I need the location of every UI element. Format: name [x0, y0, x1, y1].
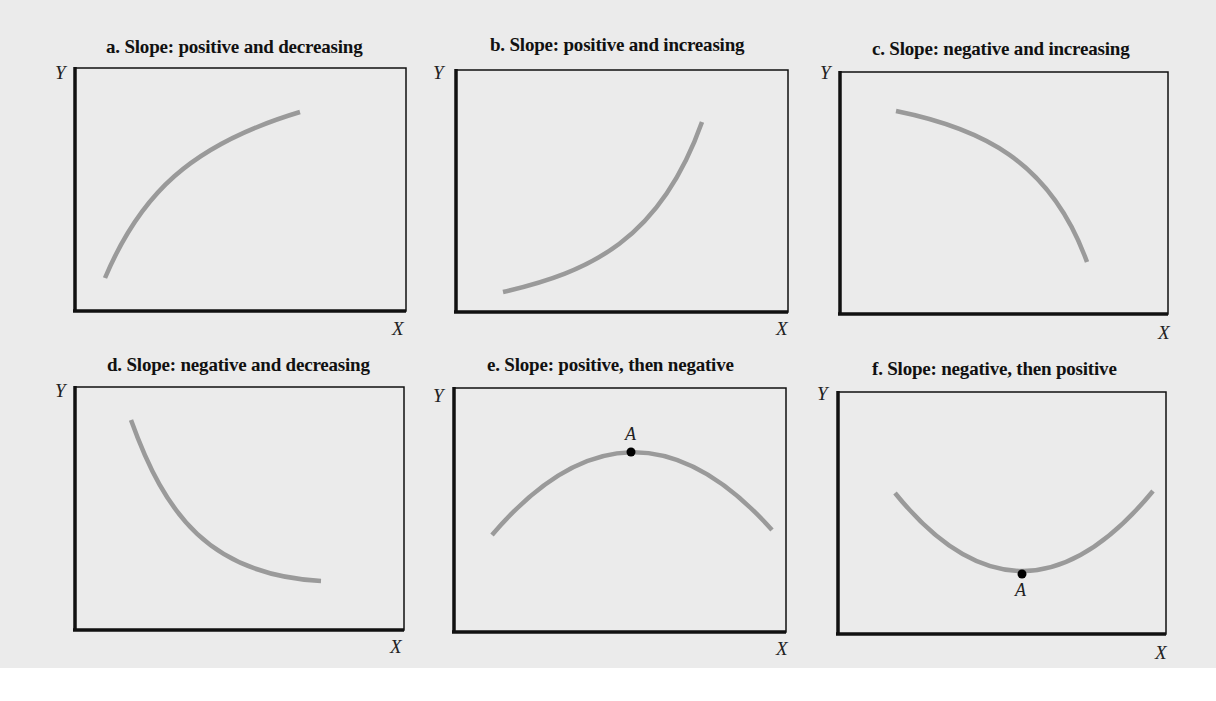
- panel-f-plot: [800, 350, 1216, 700]
- panel-c-plot: [800, 0, 1216, 350]
- point-a-label: A: [625, 424, 636, 445]
- panel-a: a. Slope: positive and decreasing Y X: [0, 0, 410, 340]
- panel-f: f. Slope: negative, then positive Y X A: [800, 350, 1216, 700]
- curve: [503, 122, 702, 292]
- plot-frame: [456, 70, 788, 312]
- plot-frame: [454, 388, 786, 632]
- panel-e-plot: [410, 350, 810, 670]
- panel-b-plot: [410, 0, 810, 340]
- panel-d-plot: [0, 350, 410, 670]
- point-a-label: A: [1015, 580, 1026, 601]
- curve: [105, 112, 300, 278]
- curve: [131, 420, 321, 581]
- panel-c: c. Slope: negative and increasing Y X: [800, 0, 1216, 350]
- plot-frame: [75, 68, 406, 311]
- plot-frame: [838, 392, 1166, 634]
- panel-a-plot: [0, 0, 410, 340]
- curve: [895, 491, 1153, 571]
- point-a-marker: [1018, 570, 1027, 579]
- panel-e: e. Slope: positive, then negative Y X A: [410, 350, 810, 670]
- panel-d: d. Slope: negative and decreasing Y X: [0, 350, 410, 670]
- point-a-marker: [627, 448, 636, 457]
- curve: [492, 452, 772, 535]
- plot-frame: [840, 72, 1168, 314]
- curve: [896, 111, 1087, 262]
- plot-frame: [75, 387, 404, 630]
- panel-b: b. Slope: positive and increasing Y X: [410, 0, 810, 340]
